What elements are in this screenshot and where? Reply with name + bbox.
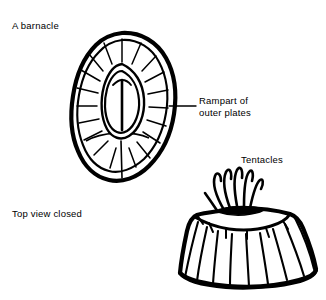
tentacle-1 <box>214 174 224 210</box>
barnacle-illustration <box>0 0 326 300</box>
top-view-drawing <box>71 33 196 181</box>
basal-plate-midline <box>121 141 122 178</box>
tentacle-3 <box>235 168 242 206</box>
figure-canvas: A barnacle Rampart ofouter plates Tentac… <box>0 0 326 300</box>
tentacles-group <box>205 168 263 212</box>
side-view-drawing <box>180 168 316 288</box>
tentacle-5 <box>250 180 263 208</box>
tentacle-2 <box>224 170 231 208</box>
